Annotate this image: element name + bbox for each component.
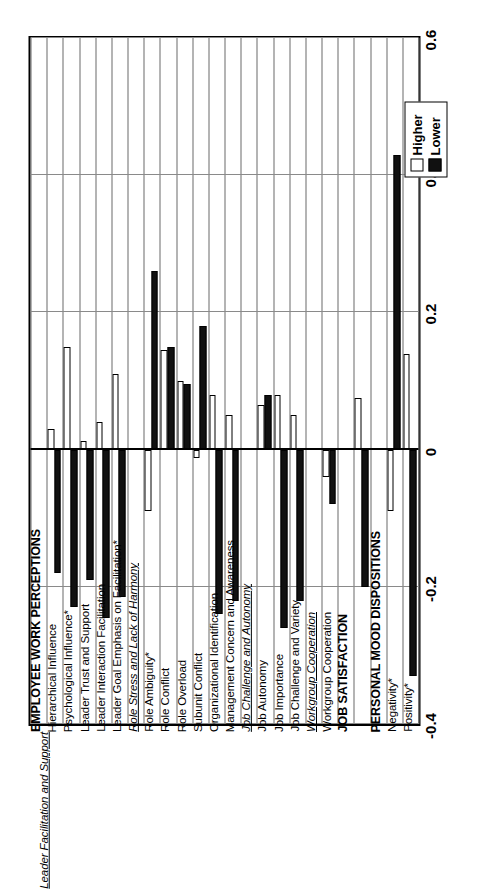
bar-higher xyxy=(403,354,410,450)
bar-higher xyxy=(322,450,329,477)
category-gridline xyxy=(192,38,193,724)
bar-lower xyxy=(264,395,271,450)
category-gridline xyxy=(143,38,144,724)
category-gridline xyxy=(30,38,31,724)
bar-lower xyxy=(151,271,158,449)
bar-lower xyxy=(409,450,416,676)
bar-lower xyxy=(86,450,93,580)
bar-higher xyxy=(274,395,281,450)
chart-legend: HigherLower xyxy=(405,102,448,178)
category-gridline xyxy=(386,38,387,724)
bar-higher xyxy=(193,450,200,458)
zero-axis-line xyxy=(30,448,418,450)
value-gridline xyxy=(30,174,418,175)
bar-lower xyxy=(118,450,125,597)
bar-higher xyxy=(112,374,119,449)
bar-higher xyxy=(209,395,216,450)
legend-label: Higher xyxy=(410,114,425,155)
category-gridline xyxy=(353,38,354,724)
legend-item: Higher xyxy=(410,108,425,172)
category-gridline xyxy=(46,38,47,724)
bar-lower xyxy=(215,450,222,615)
bar-lower xyxy=(167,347,174,450)
bar-higher xyxy=(63,347,70,450)
bar-lower xyxy=(280,450,287,628)
bar-lower xyxy=(296,450,303,601)
category-gridline xyxy=(79,38,80,724)
category-gridline xyxy=(240,38,241,724)
value-gridline xyxy=(30,723,418,724)
category-gridline xyxy=(305,38,306,724)
bar-higher xyxy=(290,415,297,449)
value-gridline xyxy=(30,37,418,38)
bar-lower xyxy=(232,450,239,601)
plot-area xyxy=(28,36,420,726)
bar-lower xyxy=(70,450,77,608)
bar-higher xyxy=(177,381,184,450)
category-gridline xyxy=(95,38,96,724)
bar-lower xyxy=(393,155,400,450)
bar-higher xyxy=(387,450,394,512)
legend-label: Lower xyxy=(428,117,443,155)
category-gridline xyxy=(337,38,338,724)
value-gridline xyxy=(30,311,418,312)
bar-higher xyxy=(160,350,167,449)
category-gridline xyxy=(370,38,371,724)
bar-lower xyxy=(183,384,190,449)
category-gridline xyxy=(224,38,225,724)
bar-higher xyxy=(47,429,54,450)
category-gridline xyxy=(289,38,290,724)
legend-swatch-black xyxy=(429,159,442,172)
legend-swatch-white xyxy=(411,159,424,172)
group-subheader-label: Leader Facilitation and Support xyxy=(38,732,50,889)
category-gridline xyxy=(256,38,257,724)
category-gridline xyxy=(321,38,322,724)
bar-lower xyxy=(199,326,206,449)
bar-higher xyxy=(96,422,103,449)
category-gridline xyxy=(208,38,209,724)
bar-higher xyxy=(257,405,264,450)
bar-higher xyxy=(354,398,361,449)
category-gridline xyxy=(273,38,274,724)
bar-lower xyxy=(329,450,336,505)
bar-lower xyxy=(102,450,109,618)
bar-lower xyxy=(361,450,368,587)
bar-lower xyxy=(54,450,61,573)
bar-higher xyxy=(225,415,232,449)
value-gridline xyxy=(30,586,418,587)
bar-higher xyxy=(144,450,151,512)
legend-item: Lower xyxy=(428,108,443,172)
category-gridline xyxy=(127,38,128,724)
